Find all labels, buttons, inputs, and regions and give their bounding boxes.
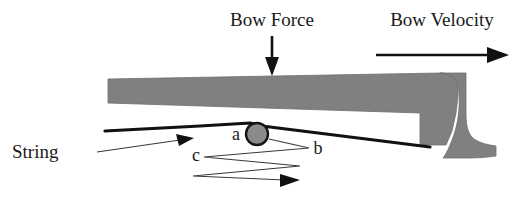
string-label: String — [12, 141, 59, 162]
point-c-label: c — [192, 145, 200, 165]
figure-root: Bow Force Bow Velocity String a b c — [0, 0, 524, 197]
bow-string-diagram: Bow Force Bow Velocity String a b c — [0, 0, 524, 197]
point-a-label: a — [232, 124, 240, 144]
point-b-label: b — [314, 138, 323, 158]
zigzag-arrow-icon — [193, 139, 309, 187]
leader-arrow-icon — [97, 134, 194, 152]
bow-stick-shape — [108, 73, 458, 145]
arrow-right-icon — [376, 47, 509, 63]
bow-velocity-label: Bow Velocity — [390, 9, 494, 30]
contact-point-icon — [246, 123, 268, 145]
arrow-down-icon — [265, 36, 279, 76]
bow-force-label: Bow Force — [230, 9, 314, 30]
